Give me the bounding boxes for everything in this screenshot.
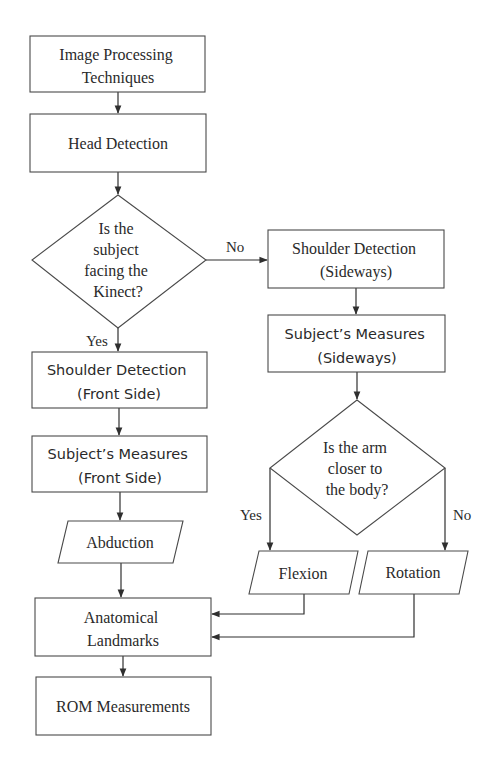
node-label-line: Subject’s Measures xyxy=(285,326,425,342)
svg-text:Is the arm closer to: Is the arm closer to the body? xyxy=(323,439,391,499)
node-label-line: (Front Side) xyxy=(78,470,162,486)
flowchart: Yes No Yes No Image Processing Technique… xyxy=(0,0,496,771)
svg-text:Head Detection: Head Detection xyxy=(68,135,168,152)
edge-label-arm-no: No xyxy=(453,507,471,523)
node-rotation: Rotation xyxy=(359,551,468,594)
node-rom: ROM Measurements xyxy=(36,677,211,735)
node-label-line: Flexion xyxy=(279,565,328,582)
node-label-line: Is the xyxy=(98,220,133,237)
node-shoulder-front: Shoulder Detection (Front Side) xyxy=(32,352,207,408)
edge-flexion-to-landmarks xyxy=(212,594,304,614)
node-label-line: Abduction xyxy=(86,534,154,551)
node-label-line: Techniques xyxy=(82,69,155,87)
node-label-line: Kinect? xyxy=(93,283,143,300)
node-label-line: (Sideways) xyxy=(317,350,397,366)
node-label-line: the body? xyxy=(326,481,389,499)
node-landmarks: Anatomical Landmarks xyxy=(35,598,211,656)
node-label-line: subject xyxy=(93,241,139,259)
node-label-line: Subject’s Measures xyxy=(48,446,188,462)
node-facing-decision: Is the subject facing the Kinect? xyxy=(32,195,206,328)
edge-label-facing-no: No xyxy=(226,239,244,255)
node-label-line: (Front Side) xyxy=(77,386,161,402)
node-flexion: Flexion xyxy=(249,551,358,594)
edge-label-facing-yes: Yes xyxy=(86,333,108,349)
svg-text:Abduction: Abduction xyxy=(86,534,154,551)
node-head-detection: Head Detection xyxy=(30,114,206,172)
node-label-line: ROM Measurements xyxy=(56,698,190,715)
node-label-line: Is the arm xyxy=(323,439,388,456)
edge-rotation-to-landmarks xyxy=(212,594,414,637)
node-label-line: Anatomical xyxy=(84,609,159,626)
svg-text:Flexion: Flexion xyxy=(279,565,328,582)
node-abduction: Abduction xyxy=(58,521,183,563)
node-image-processing: Image Processing Techniques xyxy=(30,36,205,92)
node-measures-front: Subject’s Measures (Front Side) xyxy=(32,436,207,492)
node-label-line: Image Processing xyxy=(59,46,172,64)
node-label-line: facing the xyxy=(84,262,148,280)
node-arm-decision: Is the arm closer to the body? xyxy=(270,400,445,535)
node-label-line: Head Detection xyxy=(68,135,168,152)
node-shoulder-side: Shoulder Detection (Sideways) xyxy=(268,230,444,288)
node-measures-side: Subject’s Measures (Sideways) xyxy=(268,315,445,372)
edge-label-arm-yes: Yes xyxy=(240,507,262,523)
node-label-line: (Sideways) xyxy=(320,263,392,281)
node-label-line: Rotation xyxy=(385,564,440,581)
svg-text:ROM Measurements: ROM Measurements xyxy=(56,698,190,715)
svg-text:Rotation: Rotation xyxy=(385,564,440,581)
node-label-line: Shoulder Detection xyxy=(47,362,187,378)
node-label-line: Shoulder Detection xyxy=(292,240,416,257)
node-label-line: Landmarks xyxy=(87,632,159,649)
node-label-line: closer to xyxy=(328,460,383,477)
